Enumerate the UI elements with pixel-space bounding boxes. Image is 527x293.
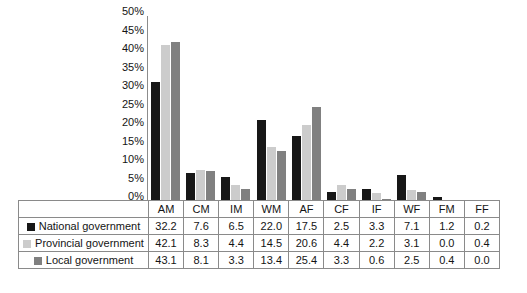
bars-container (148, 16, 500, 201)
legend-label: Local government (46, 254, 133, 266)
y-axis-tick-label: 25% (104, 99, 144, 110)
table-cell: 3.1 (394, 235, 429, 252)
table-cell: 32.2 (149, 218, 184, 235)
table-cell: 13.4 (254, 252, 289, 269)
table-column-header: CF (324, 201, 359, 218)
y-axis-tick-label: 20% (104, 117, 144, 128)
bar (186, 173, 195, 201)
table-column-header: AM (149, 201, 184, 218)
data-table: AMCMIMWMAFCFIFWFFMFFNational government3… (18, 200, 500, 269)
bar (171, 42, 180, 201)
table-column-header: IF (359, 201, 394, 218)
bar-group (183, 16, 218, 201)
table-cell: 8.1 (184, 252, 219, 269)
bar (206, 171, 215, 201)
bar (196, 170, 205, 201)
table-cell: 3.3 (219, 252, 254, 269)
bar-group (254, 16, 289, 201)
chart-figure: 50%45%40%35%30%25%20%15%10%5%0% AMCMIMWM… (0, 0, 527, 293)
table-cell: 0.0 (464, 252, 499, 269)
y-axis-tick-label: 15% (104, 136, 144, 147)
table-cell: 2.5 (394, 252, 429, 269)
y-axis-tick-label: 5% (104, 173, 144, 184)
table-cell: 22.0 (254, 218, 289, 235)
table-cell: 42.1 (149, 235, 184, 252)
table-cell: 6.5 (219, 218, 254, 235)
table-cell: 0.4 (429, 252, 464, 269)
table-cell: 7.1 (394, 218, 429, 235)
y-axis-tick-label: 40% (104, 43, 144, 54)
table-cell: 0.6 (359, 252, 394, 269)
table-cell: 0.2 (464, 218, 499, 235)
legend-entry: Local government (19, 252, 149, 269)
table-cell: 2.5 (324, 218, 359, 235)
bar (397, 175, 406, 201)
table-cell: 43.1 (149, 252, 184, 269)
bar-group (218, 16, 253, 201)
y-axis-tick-label: 45% (104, 25, 144, 36)
table-cell: 25.4 (289, 252, 324, 269)
table-cell: 0.0 (429, 235, 464, 252)
table-row: Provincial government42.18.34.414.520.64… (19, 235, 500, 252)
data-table-wrapper: AMCMIMWMAFCFIFWFFMFFNational government3… (18, 200, 500, 274)
bar (221, 177, 230, 201)
table-cell: 3.3 (324, 252, 359, 269)
table-cell: 20.6 (289, 235, 324, 252)
table-header-row: AMCMIMWMAFCFIFWFFMFF (19, 201, 500, 218)
table-corner-cell (19, 201, 149, 218)
data-table-body: AMCMIMWMAFCFIFWFFMFFNational government3… (19, 201, 500, 269)
y-axis-tick-label: 10% (104, 154, 144, 165)
legend-label: Provincial government (35, 237, 144, 249)
bar (257, 120, 266, 201)
bar (161, 45, 170, 201)
table-column-header: AF (289, 201, 324, 218)
table-column-header: WF (394, 201, 429, 218)
legend-swatch-icon (23, 240, 31, 248)
table-row: National government32.27.66.522.017.52.5… (19, 218, 500, 235)
bar (292, 136, 301, 201)
plot-area: 50%45%40%35%30%25%20%15%10%5%0% (0, 0, 527, 202)
bar (312, 107, 321, 201)
bar (151, 82, 160, 201)
y-axis-tick-label: 35% (104, 62, 144, 73)
table-cell: 4.4 (219, 235, 254, 252)
bar (302, 125, 311, 201)
table-cell: 14.5 (254, 235, 289, 252)
bar (231, 185, 240, 201)
y-axis: 50%45%40%35%30%25%20%15%10%5%0% (104, 11, 144, 201)
legend-label: National government (39, 220, 141, 232)
table-cell: 1.2 (429, 218, 464, 235)
bar-group (359, 16, 394, 201)
bar-group (324, 16, 359, 201)
bar-group (394, 16, 429, 201)
table-column-header: CM (184, 201, 219, 218)
table-cell: 2.2 (359, 235, 394, 252)
table-cell: 0.4 (464, 235, 499, 252)
bar-group (289, 16, 324, 201)
bar-group (430, 16, 465, 201)
legend-swatch-icon (27, 223, 35, 231)
table-column-header: FM (429, 201, 464, 218)
table-column-header: FF (464, 201, 499, 218)
legend-entry: National government (19, 218, 149, 235)
bar (277, 151, 286, 201)
bar-group (148, 16, 183, 201)
table-row: Local government43.18.13.313.425.43.30.6… (19, 252, 500, 269)
table-cell: 4.4 (324, 235, 359, 252)
bar (267, 147, 276, 201)
table-column-header: WM (254, 201, 289, 218)
bar-group (465, 16, 500, 201)
table-cell: 17.5 (289, 218, 324, 235)
legend-swatch-icon (34, 257, 42, 265)
bar (337, 185, 346, 201)
table-column-header: IM (219, 201, 254, 218)
y-axis-tick-label: 50% (104, 6, 144, 17)
table-cell: 3.3 (359, 218, 394, 235)
table-cell: 8.3 (184, 235, 219, 252)
y-axis-tick-label: 30% (104, 80, 144, 91)
legend-entry: Provincial government (19, 235, 149, 252)
table-cell: 7.6 (184, 218, 219, 235)
